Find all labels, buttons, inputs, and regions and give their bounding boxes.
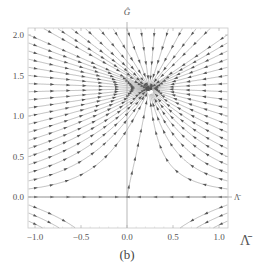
arrow-icon — [218, 120, 223, 124]
arrow-icon — [218, 168, 223, 172]
streamline — [29, 94, 148, 197]
arrow-icon — [65, 179, 70, 183]
arrow-icon — [178, 68, 183, 72]
arrow-icon — [97, 78, 101, 81]
arrow-icon — [93, 66, 98, 70]
arrow-icon — [50, 70, 54, 73]
arrow-icon — [218, 83, 222, 86]
arrow-icon — [95, 70, 100, 74]
arrow-icon — [171, 80, 176, 84]
arrow-icon — [206, 45, 211, 49]
arrow-icon — [218, 151, 223, 155]
arrow-icon — [49, 173, 54, 177]
arrow-icon — [202, 84, 206, 87]
arrow-icon — [48, 30, 53, 34]
arrow-icon — [121, 100, 126, 104]
streamline — [149, 51, 227, 88]
arrow-icon — [202, 71, 207, 75]
arrow-icon — [87, 47, 92, 51]
arrow-icon — [205, 144, 210, 148]
streamline — [44, 29, 149, 89]
arrow-icon — [177, 32, 181, 37]
arrow-icon — [77, 150, 82, 154]
arrow-icon — [90, 141, 95, 145]
arrow-icon — [204, 161, 209, 165]
arrow-icon — [218, 177, 223, 181]
arrow-icon — [123, 130, 127, 135]
streamline — [86, 29, 150, 89]
arrow-icon — [218, 60, 223, 64]
arrow-icon — [48, 131, 53, 135]
streamline — [29, 88, 150, 124]
y-tick-label: 0.0 — [13, 192, 25, 202]
arrow-icon — [48, 155, 53, 159]
arrow-icon — [64, 119, 69, 123]
arrow-icon — [49, 56, 54, 60]
arrow-icon — [96, 74, 100, 77]
arrow-icon — [33, 144, 38, 148]
arrow-icon — [63, 55, 68, 59]
streamline — [197, 213, 227, 228]
arrow-icon — [114, 32, 118, 37]
arrow-icon — [169, 85, 173, 88]
arrow-icon — [64, 61, 69, 65]
arrow-icon — [108, 71, 113, 75]
arrow-icon — [115, 86, 119, 89]
y-tick-label: 1.5 — [13, 71, 25, 81]
arrow-icon — [219, 37, 224, 41]
figure-caption: (b) — [0, 247, 254, 263]
arrow-icon — [107, 107, 112, 111]
arrow-icon — [165, 33, 169, 38]
arrow-icon — [101, 56, 106, 60]
arrow-icon — [133, 156, 136, 160]
arrow-icon — [49, 110, 53, 113]
arrow-icon — [97, 99, 101, 102]
arrow-icon — [192, 127, 197, 131]
arrow-icon — [33, 128, 38, 132]
arrow-icon — [145, 100, 148, 104]
arrow-icon — [61, 38, 66, 42]
arrow-icon — [202, 183, 207, 187]
arrow-icon — [155, 106, 159, 111]
arrow-icon — [82, 80, 86, 83]
arrow-icon — [171, 93, 176, 97]
arrow-icon — [218, 135, 223, 139]
arrow-icon — [218, 206, 223, 210]
arrow-icon — [110, 75, 115, 79]
arrow-icon — [117, 109, 122, 113]
arrow-icon — [83, 84, 87, 87]
arrow-icon — [91, 126, 96, 130]
arrow-icon — [119, 104, 124, 108]
arrow-icon — [89, 53, 94, 57]
arrow-icon — [150, 61, 153, 65]
x-axis-label: Λ̄ — [240, 233, 253, 248]
arrow-icon — [111, 99, 116, 103]
arrow-icon — [112, 96, 116, 99]
arrow-icon — [65, 106, 69, 109]
arrow-icon — [34, 98, 38, 101]
arrow-icon — [33, 206, 38, 210]
arrow-icon — [77, 141, 82, 145]
arrow-icon — [83, 89, 87, 92]
arrow-icon — [202, 101, 206, 104]
streamline — [29, 51, 150, 88]
arrow-icon — [77, 126, 82, 130]
arrow-icon — [176, 106, 181, 110]
arrow-icon — [156, 116, 160, 121]
streamline — [149, 35, 227, 88]
y-axis-label: Ĝ — [124, 7, 131, 17]
arrow-icon — [191, 120, 196, 124]
arrow-icon — [34, 75, 38, 78]
arrow-icon — [34, 113, 38, 116]
arrow-icon — [94, 108, 99, 112]
arrow-icon — [61, 30, 66, 34]
arrow-icon — [62, 219, 67, 223]
arrow-icon — [65, 113, 70, 117]
arrow-icon — [79, 65, 84, 69]
arrow-icon — [33, 214, 38, 218]
arrow-icon — [178, 112, 183, 116]
arrow-icon — [49, 124, 54, 128]
arrow-icon — [138, 59, 142, 64]
arrow-icon — [218, 160, 223, 164]
arrow-icon — [189, 108, 194, 112]
